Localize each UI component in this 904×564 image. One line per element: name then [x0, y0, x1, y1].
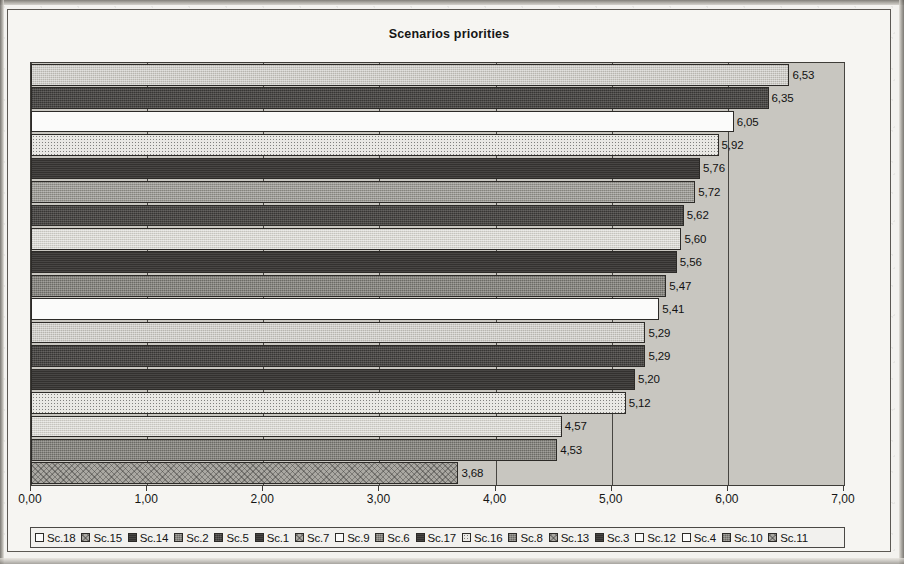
legend-swatch-icon: [128, 533, 137, 542]
bar-value-label: 3,68: [458, 467, 483, 479]
bar[interactable]: [31, 392, 626, 414]
bar-value-label: 5,60: [681, 233, 706, 245]
legend-swatch-icon: [375, 533, 384, 542]
bar-row: 6,05: [31, 111, 844, 133]
legend-label: Sc.1: [267, 532, 289, 544]
legend-item-sc-17[interactable]: Sc.17: [416, 532, 462, 544]
legend-label: Sc.10: [734, 532, 762, 544]
legend-item-sc-13[interactable]: Sc.13: [549, 532, 595, 544]
bar-row: 5,29: [31, 322, 844, 344]
bar[interactable]: [31, 275, 666, 297]
bar[interactable]: [31, 158, 700, 180]
legend-swatch-icon: [682, 533, 691, 542]
bar[interactable]: [31, 298, 659, 320]
chart-legend: Sc.18Sc.15Sc.14Sc.2Sc.5Sc.1Sc.7Sc.9Sc.6S…: [30, 527, 845, 548]
scan-edge-right: [899, 0, 904, 564]
bar-value-label: 5,92: [719, 139, 744, 151]
legend-swatch-icon: [214, 533, 223, 542]
plot-area: 6,536,356,055,925,765,725,625,605,565,47…: [30, 62, 845, 486]
x-axis-tick-label: 0,00: [18, 492, 41, 506]
x-axis: 0,001,002,003,004,005,006,007,00: [30, 486, 845, 506]
bar[interactable]: [31, 181, 695, 203]
bar[interactable]: [31, 439, 557, 461]
bar[interactable]: [31, 322, 645, 344]
legend-item-sc-8[interactable]: Sc.8: [508, 532, 548, 544]
legend-item-sc-7[interactable]: Sc.7: [295, 532, 335, 544]
bar-value-label: 5,41: [659, 303, 684, 315]
x-axis-tick-label: 1,00: [134, 492, 157, 506]
legend-label: Sc.17: [428, 532, 456, 544]
legend-swatch-icon: [81, 533, 90, 542]
x-axis-tick: [611, 486, 612, 491]
scanned-page: the of a scanned page as it cameation of…: [0, 0, 904, 564]
legend-swatch-icon: [508, 533, 517, 542]
x-axis-tick-label: 5,00: [599, 492, 622, 506]
legend-item-sc-14[interactable]: Sc.14: [128, 532, 174, 544]
legend-swatch-icon: [174, 533, 183, 542]
legend-label: Sc.9: [347, 532, 369, 544]
legend-swatch-icon: [295, 533, 304, 542]
scan-edge-top: [0, 0, 904, 5]
legend-label: Sc.18: [47, 532, 75, 544]
chart-frame: Scenarios priorities 6,536,356,055,925,7…: [7, 9, 891, 552]
legend-item-sc-15[interactable]: Sc.15: [81, 532, 127, 544]
bar[interactable]: [31, 228, 681, 250]
bar-row: 5,29: [31, 345, 844, 367]
legend-label: Sc.8: [520, 532, 542, 544]
bar-row: 4,57: [31, 416, 844, 438]
legend-item-sc-16[interactable]: Sc.16: [462, 532, 508, 544]
legend-item-sc-3[interactable]: Sc.3: [595, 532, 635, 544]
legend-item-sc-6[interactable]: Sc.6: [375, 532, 415, 544]
legend-label: Sc.5: [226, 532, 248, 544]
bar[interactable]: [31, 87, 769, 109]
legend-label: Sc.4: [694, 532, 716, 544]
bar-value-label: 5,29: [645, 350, 670, 362]
legend-item-sc-4[interactable]: Sc.4: [682, 532, 722, 544]
legend-item-sc-1[interactable]: Sc.1: [255, 532, 295, 544]
bar[interactable]: [31, 345, 645, 367]
bar-row: 5,76: [31, 158, 844, 180]
chart-title: Scenarios priorities: [8, 27, 890, 41]
bar-value-label: 5,20: [635, 373, 660, 385]
legend-item-sc-11[interactable]: Sc.11: [768, 532, 814, 544]
bar-row: 5,72: [31, 181, 844, 203]
legend-label: Sc.6: [387, 532, 409, 544]
x-axis-tick-label: 6,00: [715, 492, 738, 506]
bar-value-label: 5,72: [695, 186, 720, 198]
legend-item-sc-9[interactable]: Sc.9: [335, 532, 375, 544]
bar[interactable]: [31, 416, 562, 438]
legend-swatch-icon: [768, 533, 777, 542]
legend-item-sc-10[interactable]: Sc.10: [722, 532, 768, 544]
bar-row: 5,60: [31, 228, 844, 250]
bar[interactable]: [31, 111, 734, 133]
bar-row: 5,92: [31, 134, 844, 156]
x-axis-tick: [262, 486, 263, 491]
legend-item-sc-5[interactable]: Sc.5: [214, 532, 254, 544]
bar[interactable]: [31, 134, 719, 156]
legend-label: Sc.15: [93, 532, 121, 544]
bar[interactable]: [31, 251, 677, 273]
bar-row: 3,68: [31, 462, 844, 484]
bar[interactable]: [31, 369, 635, 391]
bar-value-label: 5,56: [677, 256, 702, 268]
legend-label: Sc.11: [780, 532, 808, 544]
legend-swatch-icon: [255, 533, 264, 542]
legend-swatch-icon: [595, 533, 604, 542]
x-axis-tick: [495, 486, 496, 491]
x-axis-tick: [146, 486, 147, 491]
legend-swatch-icon: [35, 533, 44, 542]
scan-edge-left: [0, 0, 4, 564]
legend-swatch-icon: [722, 533, 731, 542]
legend-label: Sc.2: [186, 532, 208, 544]
bar-value-label: 6,05: [734, 116, 759, 128]
legend-item-sc-18[interactable]: Sc.18: [35, 532, 81, 544]
bar-value-label: 5,47: [666, 280, 691, 292]
bar[interactable]: [31, 64, 789, 86]
legend-item-sc-2[interactable]: Sc.2: [174, 532, 214, 544]
bar[interactable]: [31, 462, 458, 484]
legend-item-sc-12[interactable]: Sc.12: [635, 532, 681, 544]
bar-row: 5,62: [31, 205, 844, 227]
x-axis-tick: [378, 486, 379, 491]
bar[interactable]: [31, 205, 684, 227]
legend-label: Sc.3: [607, 532, 629, 544]
